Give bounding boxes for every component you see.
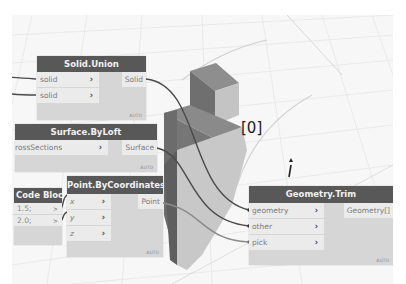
port-label: z bbox=[70, 229, 74, 238]
node-geometry-trim[interactable]: Geometry.Trim geometry › Geometry[] othe… bbox=[249, 186, 393, 265]
output-arrow-icon: > bbox=[53, 215, 58, 226]
port-label: Solid bbox=[125, 75, 143, 84]
lacing-indicator[interactable]: AUTO bbox=[129, 113, 142, 118]
node-title: Point.ByCoordinates bbox=[67, 176, 163, 194]
input-port-solid-2[interactable]: solid › bbox=[37, 88, 99, 103]
node-title: Geometry.Trim bbox=[249, 186, 393, 203]
chevron-right-icon: › bbox=[102, 210, 105, 225]
chevron-right-icon: › bbox=[102, 194, 105, 209]
lacing-indicator[interactable]: AUTO bbox=[146, 250, 159, 255]
input-port-z[interactable]: z › bbox=[67, 226, 111, 241]
output-port-surface[interactable]: Surface bbox=[122, 140, 157, 155]
node-surface-byloft[interactable]: Surface.ByLoft rossSections › Surface AU… bbox=[15, 124, 157, 172]
port-label: pick bbox=[252, 238, 267, 247]
chevron-right-icon: › bbox=[90, 72, 93, 87]
input-port-y[interactable]: y › bbox=[67, 210, 111, 225]
node-title: Solid.Union bbox=[37, 56, 146, 72]
output-port-solid[interactable]: Solid bbox=[122, 72, 146, 87]
node-title: Surface.ByLoft bbox=[15, 124, 157, 140]
port-label: x bbox=[70, 197, 74, 206]
input-port-solid-1[interactable]: solid › bbox=[37, 72, 99, 87]
port-label: Geometry[] bbox=[347, 206, 390, 215]
chevron-right-icon: › bbox=[90, 88, 93, 103]
lacing-indicator[interactable]: AUTO bbox=[140, 165, 153, 170]
output-port-point[interactable]: Point bbox=[138, 194, 163, 209]
chevron-right-icon: › bbox=[99, 140, 102, 155]
port-label: geometry bbox=[252, 206, 288, 215]
chevron-right-icon: › bbox=[315, 203, 318, 218]
index-label: [0] bbox=[241, 119, 262, 137]
node-title: Code Block bbox=[14, 188, 62, 203]
node-point-bycoordinates[interactable]: Point.ByCoordinates x › Point y › z › AU… bbox=[67, 176, 163, 257]
background-3d-viewport[interactable]: [0] Solid.Union solid › Solid solid › AU… bbox=[12, 15, 393, 284]
input-port-other[interactable]: other › bbox=[249, 219, 324, 234]
output-arrow-icon: > bbox=[53, 203, 58, 214]
lacing-indicator[interactable]: AUTO bbox=[376, 258, 389, 263]
port-label: solid bbox=[40, 91, 57, 100]
node-solid-union[interactable]: Solid.Union solid › Solid solid › AUTO bbox=[37, 56, 146, 120]
chevron-right-icon: › bbox=[315, 219, 318, 234]
input-port-crosssections[interactable]: rossSections › bbox=[15, 140, 108, 155]
code-line-2[interactable]: 2.0; > bbox=[14, 215, 62, 227]
port-label: y bbox=[70, 213, 74, 222]
port-label: other bbox=[252, 222, 272, 231]
port-label: Point bbox=[141, 197, 160, 206]
chevron-right-icon: › bbox=[102, 226, 105, 241]
chevron-right-icon: › bbox=[315, 235, 318, 250]
port-label: rossSections bbox=[15, 143, 62, 152]
port-label: solid bbox=[40, 75, 57, 84]
input-port-geometry[interactable]: geometry › bbox=[249, 203, 324, 218]
code-line-1[interactable]: 1.5; > bbox=[14, 203, 62, 215]
port-label: Surface bbox=[125, 143, 154, 152]
input-port-x[interactable]: x › bbox=[67, 194, 111, 209]
output-port-geometry-list[interactable]: Geometry[] bbox=[344, 203, 393, 218]
node-code-block[interactable]: Code Block 1.5; > 2.0; > bbox=[14, 188, 62, 245]
input-port-pick[interactable]: pick › bbox=[249, 235, 324, 250]
